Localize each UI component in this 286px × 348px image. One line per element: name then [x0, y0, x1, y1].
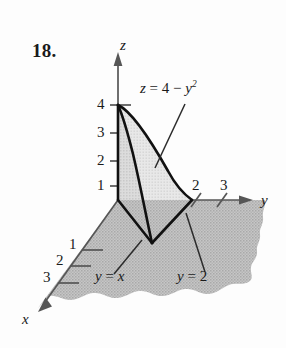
x-axis-label: x	[22, 312, 29, 327]
figure-container: 18. z y x 4 3 2 1 2 3 1 2 3 z = 4 − y2 y…	[0, 0, 286, 348]
leader-surface-equation	[155, 104, 185, 168]
plane-y-equals-2-lhs: y	[177, 268, 184, 284]
plane-y-equals-2-equals: =	[187, 268, 195, 284]
y-tick-label-3: 3	[220, 178, 228, 193]
surface-equation-label: z = 4 − y2	[140, 81, 197, 96]
x-axis-arrowhead	[38, 298, 52, 313]
z-tick-label-2: 2	[97, 153, 105, 168]
y-axis-label: y	[261, 193, 268, 208]
x-tick-label-3: 3	[43, 270, 51, 285]
surface-equation-variable: y	[185, 80, 192, 96]
z-tick-label-1: 1	[97, 178, 105, 193]
z-tick-label-4: 4	[97, 97, 105, 112]
plane-y-equals-x-rhs: x	[118, 268, 125, 284]
plane-y-equals-2-rhs: 2	[200, 268, 208, 284]
surface-equation-equals: =	[150, 80, 158, 96]
plane-y-equals-x-label: y = x	[95, 269, 124, 284]
y-tick-label-2: 2	[192, 178, 200, 193]
problem-number: 18.	[32, 41, 57, 60]
surface-equation-minus: −	[173, 80, 181, 96]
plane-y-equals-2-label: y = 2	[177, 269, 207, 284]
z-tick-label-3: 3	[97, 125, 105, 140]
z-axis-arrowhead	[114, 52, 123, 66]
surface-equation-exponent: 2	[192, 79, 197, 89]
x-tick-label-2: 2	[56, 253, 64, 268]
z-axis-label: z	[120, 38, 126, 53]
plane-y-equals-x-equals: =	[105, 268, 113, 284]
x-tick-label-1: 1	[69, 237, 77, 252]
plane-y-equals-x-lhs: y	[95, 268, 102, 284]
